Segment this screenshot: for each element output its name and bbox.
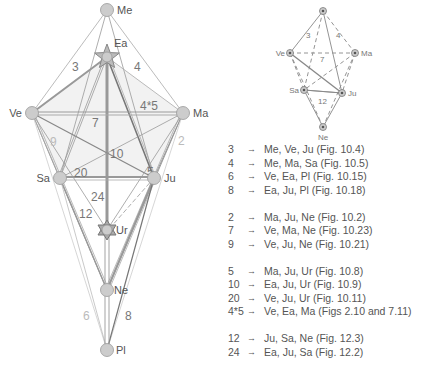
legend-text: Ve, Ea, Pl (Fig. 10.15)	[264, 170, 367, 184]
arrow-right-icon: →	[247, 278, 264, 292]
legend: 3→Me, Ve, Ju (Fig. 10.4)4→Me, Ma, Sa (Fi…	[228, 143, 411, 366]
arrow-right-icon: →	[247, 346, 264, 360]
legend-row: 12→Ju, Sa, Ne (Fig. 12.3)	[228, 332, 411, 346]
small-edge-label: 3	[306, 31, 311, 40]
legend-row: 4→Me, Ma, Sa (Fig. 10.5)	[228, 157, 411, 171]
node-label: Ve	[9, 107, 22, 119]
small-node-label: Ma	[361, 49, 373, 58]
arrow-right-icon: →	[247, 224, 264, 238]
node-pl: Pl	[101, 344, 126, 357]
legend-key: 6	[228, 170, 247, 184]
legend-text: Ve, Ea, Ma (Figs 2.10 and 7.11)	[264, 305, 411, 319]
small-node-label: Ju	[348, 89, 356, 98]
legend-row: 2→Ma, Ju, Ne (Fig. 10.2)	[228, 211, 411, 225]
legend-text: Ve, Ma, Ne (Fig. 10.23)	[264, 224, 373, 238]
node-label: Pl	[116, 344, 126, 356]
circle-node-icon	[177, 107, 190, 120]
legend-text: Me, Ve, Ju (Fig. 10.4)	[264, 143, 364, 157]
small-node-ma: Ma	[352, 49, 373, 58]
edge-label: 24	[91, 190, 105, 204]
legend-key: 3	[228, 143, 247, 157]
node-label: Ma	[193, 107, 209, 119]
small-node-label: Ve	[276, 49, 286, 58]
small-nodes: VeMaSaJuNe	[276, 8, 373, 143]
small-node-sa: Sa	[289, 86, 307, 95]
small-node-top	[320, 8, 327, 15]
legend-row: 20→Ve, Ju, Ur (Fig. 10.11)	[228, 292, 411, 306]
arrow-right-icon: →	[247, 238, 264, 252]
legend-key: 4	[228, 157, 247, 171]
legend-key: 4*5	[228, 305, 247, 319]
legend-row: 7→Ve, Ma, Ne (Fig. 10.23)	[228, 224, 411, 238]
arrow-right-icon: →	[247, 184, 264, 198]
edge-label: 20	[74, 166, 88, 180]
circle-node-icon	[101, 4, 114, 17]
legend-group: 2→Ma, Ju, Ne (Fig. 10.2)7→Ve, Ma, Ne (Fi…	[228, 211, 411, 252]
edge-label: 4	[134, 60, 141, 74]
legend-row: 4*5→Ve, Ea, Ma (Figs 2.10 and 7.11)	[228, 305, 411, 319]
node-label: Ea	[114, 37, 128, 49]
legend-row: 8→Ea, Ju, Pl (Fig. 10.18)	[228, 184, 411, 198]
small-node-ju: Ju	[339, 89, 357, 98]
legend-row: 24→Ea, Ju, Sa (Fig. 12.2)	[228, 346, 411, 360]
node-label: Ju	[164, 172, 176, 184]
small-edge-label: 4	[336, 31, 341, 40]
legend-group: 12→Ju, Sa, Ne (Fig. 12.3)24→Ea, Ju, Sa (…	[228, 332, 411, 359]
node-me: Me	[101, 4, 133, 17]
legend-text: Ve, Ju, Ne (Fig. 10.21)	[264, 238, 369, 252]
small-edge-labels: 34712	[306, 31, 341, 106]
legend-key: 8	[228, 184, 247, 198]
small-node-label: Sa	[289, 86, 299, 95]
circle-node-icon	[54, 172, 67, 185]
legend-key: 12	[228, 332, 247, 346]
node-ve: Ve	[9, 107, 38, 120]
legend-key: 9	[228, 238, 247, 252]
arrow-right-icon: →	[247, 332, 264, 346]
legend-text: Ea, Ju, Pl (Fig. 10.18)	[264, 184, 366, 198]
legend-group: 5→Ma, Ju, Ur (Fig. 10.8)10→Ea, Ju, Ur (F…	[228, 265, 411, 319]
circle-node-icon	[148, 172, 161, 185]
small-node-ve: Ve	[276, 49, 294, 58]
small-node-ne: Ne	[318, 124, 329, 143]
node-ne: Ne	[101, 284, 129, 297]
legend-key: 24	[228, 346, 247, 360]
legend-text: Ve, Ju, Ur (Fig. 10.11)	[264, 292, 366, 306]
edge-label: 12	[79, 207, 93, 221]
arrow-right-icon: →	[247, 265, 264, 279]
circle-node-icon	[101, 344, 114, 357]
node-ju: Ju	[148, 172, 176, 185]
small-edge-label: 12	[318, 97, 327, 106]
edge-label: 10	[110, 147, 124, 161]
arrow-right-icon: →	[247, 143, 264, 157]
legend-key: 7	[228, 224, 247, 238]
arrow-right-icon: →	[247, 157, 264, 171]
node-label: Ne	[114, 284, 128, 296]
legend-text: Ma, Ju, Ne (Fig. 10.2)	[264, 211, 366, 225]
circle-node-icon	[101, 284, 114, 297]
circle-node-icon	[26, 107, 39, 120]
legend-row: 9→Ve, Ju, Ne (Fig. 10.21)	[228, 238, 411, 252]
legend-text: Ea, Ju, Sa (Fig. 12.2)	[264, 346, 363, 360]
node-label: Ur	[116, 224, 128, 236]
arrow-right-icon: →	[247, 292, 264, 306]
node-ma: Ma	[177, 107, 210, 120]
edge-label: 9	[50, 135, 57, 149]
legend-text: Me, Ma, Sa (Fig. 10.5)	[264, 157, 368, 171]
legend-row: 3→Me, Ve, Ju (Fig. 10.4)	[228, 143, 411, 157]
legend-group: 3→Me, Ve, Ju (Fig. 10.4)4→Me, Ma, Sa (Fi…	[228, 143, 411, 197]
legend-row: 5→Ma, Ju, Ur (Fig. 10.8)	[228, 265, 411, 279]
legend-text: Ea, Ju, Ur (Fig. 10.9)	[264, 278, 361, 292]
edge-label: 7	[92, 116, 99, 130]
small-diagram-edges	[290, 11, 355, 127]
legend-key: 20	[228, 292, 247, 306]
legend-key: 2	[228, 211, 247, 225]
edge-label: 4*5	[140, 99, 158, 113]
legend-text: Ma, Ju, Ur (Fig. 10.8)	[264, 265, 363, 279]
node-label: Me	[117, 4, 132, 16]
edge-label: 8	[125, 309, 132, 323]
arrow-right-icon: →	[247, 305, 264, 319]
node-label: Sa	[37, 172, 51, 184]
edge-label: 2	[178, 134, 185, 148]
small-edge-label: 7	[320, 55, 325, 64]
legend-text: Ju, Sa, Ne (Fig. 12.3)	[264, 332, 364, 346]
